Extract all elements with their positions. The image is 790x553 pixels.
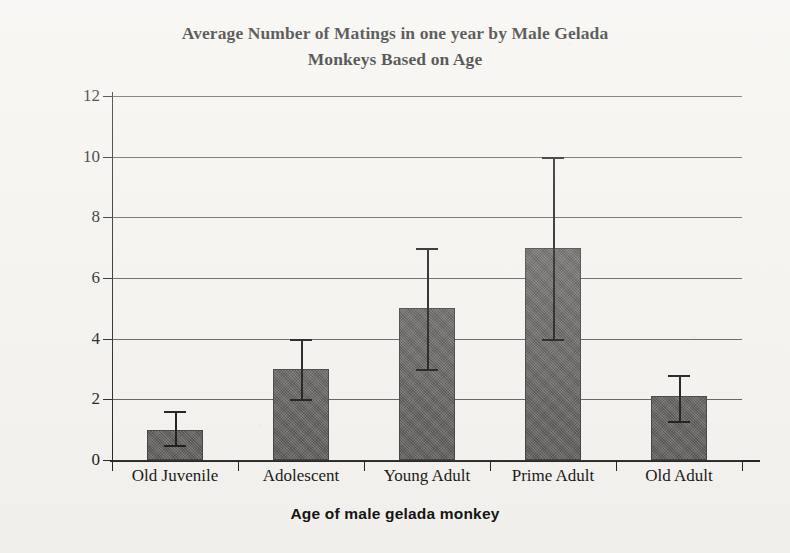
x-axis-tick-mark [112,460,113,471]
y-axis-tick-label: 2 [54,389,100,409]
error-bar-stem [427,248,429,369]
y-axis-tick-mark [103,278,112,279]
error-bar-stem [175,411,177,444]
x-axis-tick-label: Old Juvenile [132,466,218,486]
error-bar-cap-lower [668,421,690,423]
error-bar-stem [679,375,681,421]
y-axis-tick-mark [103,460,112,461]
x-axis-tick-label: Old Adult [645,466,713,486]
error-bar-cap-lower [290,399,312,401]
y-axis-tick-label: 10 [54,147,100,167]
error-bar-cap-upper [290,339,312,341]
gridline [112,217,742,218]
y-axis-tick-mark [103,399,112,400]
y-axis-tick-label: 8 [54,207,100,227]
error-bar-stem [301,339,303,400]
x-axis-tick-mark [742,460,743,471]
gridline [112,157,742,158]
gridline [112,460,742,461]
error-bar-cap-upper [416,248,438,250]
error-bar-cap-upper [542,157,564,159]
y-axis-tick-mark [103,217,112,218]
y-axis-tick-mark [103,157,112,158]
error-bar-stem [553,157,555,339]
x-axis-tick-mark [490,460,491,471]
plot-area [112,96,742,460]
gridline [112,96,742,97]
error-bar-cap-upper [668,375,690,377]
y-axis-tick-label: 0 [54,450,100,470]
error-bar-cap-lower [416,369,438,371]
x-axis-tick-mark [364,460,365,471]
x-axis-title: Age of male gelada monkey [0,505,790,523]
x-axis-tick-label: Prime Adult [512,466,595,486]
chart-title-line-2: Monkeys Based on Age [0,46,790,72]
y-axis-tick-label: 12 [54,86,100,106]
y-axis-tick-mark [103,339,112,340]
y-axis-tick-label: 4 [54,329,100,349]
x-axis-tick-mark [616,460,617,471]
chart-plot: 024681012Old JuvenileAdolescentYoung Adu… [0,0,790,553]
error-bar-cap-lower [542,339,564,341]
error-bar-cap-lower [164,445,186,447]
x-axis-tick-label: Young Adult [384,466,471,486]
x-axis-tick-label: Adolescent [263,466,339,486]
error-bar-cap-upper [164,411,186,413]
y-axis-tick-label: 6 [54,268,100,288]
chart-title-line-1: Average Number of Matings in one year by… [0,20,790,46]
x-axis-tick-mark [238,460,239,471]
y-axis-tick-mark [103,96,112,97]
chart-title: Average Number of Matings in one year by… [0,20,790,72]
